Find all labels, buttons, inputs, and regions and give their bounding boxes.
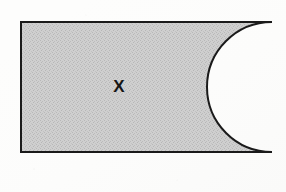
figure-container: X bbox=[0, 0, 286, 192]
geometry-figure: X bbox=[0, 0, 286, 192]
shape-label-x: X bbox=[113, 77, 125, 96]
